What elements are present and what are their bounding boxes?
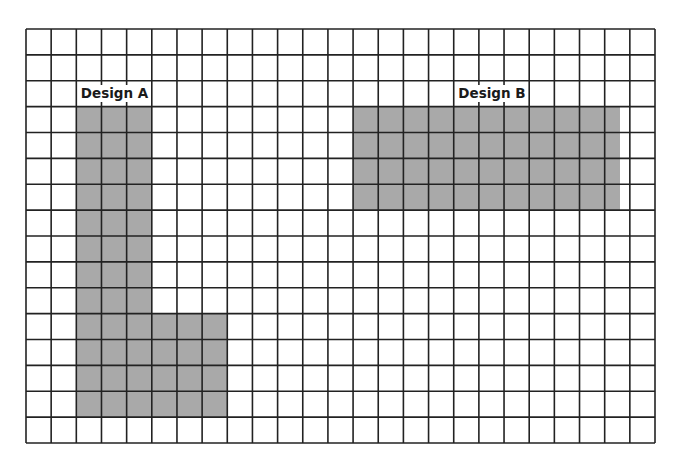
design-b-label: Design B [456,85,528,102]
design-a-label: Design A [78,85,150,102]
grid-paper: Design A Design B [26,29,655,443]
